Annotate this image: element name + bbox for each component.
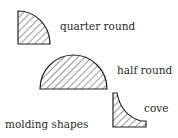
molding-diagram: quarter round half round cove molding sh… bbox=[0, 0, 178, 138]
cove-label: cove bbox=[144, 103, 168, 114]
quarter-round-label: quarter round bbox=[60, 21, 135, 32]
diagram-title: molding shapes bbox=[5, 119, 88, 130]
quarter-round-shape bbox=[18, 11, 50, 44]
half-round-label: half round bbox=[117, 65, 172, 76]
half-round-shape bbox=[40, 55, 107, 89]
cove-shape bbox=[113, 93, 146, 127]
